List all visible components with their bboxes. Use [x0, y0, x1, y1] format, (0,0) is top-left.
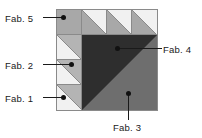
- label-fab3: Fab. 3: [113, 122, 141, 133]
- pointer-dot-fab5: [61, 15, 66, 20]
- unit-r1c4-half-square-triangle: [132, 10, 157, 35]
- label-fab1: Fab. 1: [5, 93, 33, 104]
- pointer-dot-fab3: [126, 91, 131, 96]
- label-fab2: Fab. 2: [5, 60, 33, 71]
- unit-r1c1-solid-square: [57, 10, 82, 35]
- unit-r1c4-shape: [132, 10, 157, 35]
- label-fab4: Fab. 4: [163, 44, 191, 55]
- unit-r1c3-half-square-triangle: [107, 10, 132, 35]
- unit-r2c1-half-square-triangle: [57, 35, 82, 60]
- leader-line-fab3: [128, 93, 129, 120]
- pointer-dot-fab1: [61, 95, 66, 100]
- pointer-dot-fab2: [69, 62, 74, 67]
- unit-r2c1-shape: [57, 35, 82, 60]
- label-fab5: Fab. 5: [5, 13, 33, 24]
- unit-r1c2-shape: [82, 10, 107, 35]
- unit-r1c3-shape: [107, 10, 132, 35]
- leader-line-fab5: [43, 17, 63, 18]
- unit-r1c2-half-square-triangle: [82, 10, 107, 35]
- pointer-dot-fab4: [115, 46, 120, 51]
- unit-r1c1-shape: [57, 10, 82, 35]
- leader-line-fab1: [43, 97, 63, 98]
- leader-line-fab4: [117, 48, 162, 49]
- leader-line-fab2: [43, 64, 71, 65]
- quilt-block-diagram: Fab. 5 Fab. 2 Fab. 1 Fab. 4 Fab. 3: [0, 0, 202, 138]
- quilt-block-grid: [56, 9, 158, 111]
